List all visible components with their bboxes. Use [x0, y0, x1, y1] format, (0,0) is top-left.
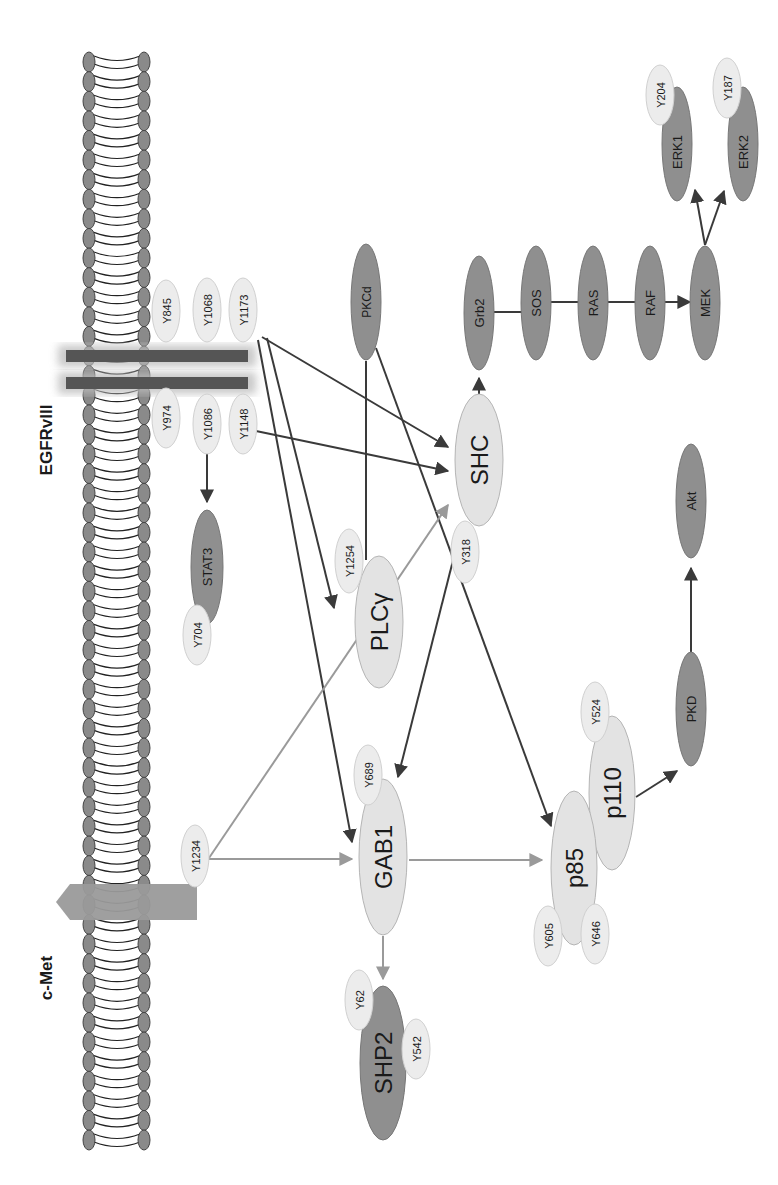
- site-y1148: Y1148: [229, 394, 257, 454]
- svg-text:SOS: SOS: [529, 289, 544, 317]
- site-y1068: Y1068: [193, 278, 221, 342]
- svg-text:Y318: Y318: [460, 539, 472, 565]
- svg-text:RAF: RAF: [643, 290, 658, 316]
- svg-text:SHC: SHC: [466, 435, 493, 486]
- svg-text:Y1148: Y1148: [238, 409, 250, 440]
- node-erk1: ERK1 Y204: [646, 65, 692, 201]
- node-stat3: STAT3 Y704: [183, 510, 223, 665]
- arrow-mek-erk2: [705, 191, 724, 245]
- svg-text:p85: p85: [561, 848, 588, 888]
- svg-text:RAS: RAS: [586, 289, 601, 316]
- node-sos: SOS: [521, 246, 551, 360]
- cell-membrane: [83, 52, 150, 1153]
- svg-text:Y646: Y646: [590, 921, 602, 947]
- svg-text:Y1086: Y1086: [202, 408, 214, 440]
- svg-text:GAB1: GAB1: [370, 825, 397, 889]
- signaling-pathway-diagram: EGFRvIII c-Met: [0, 0, 778, 1185]
- site-y974: Y974: [152, 388, 180, 448]
- svg-text:Y187: Y187: [722, 75, 734, 101]
- svg-text:Grb2: Grb2: [472, 299, 487, 328]
- egfrviii-label: EGFRvIII: [37, 405, 56, 476]
- arrow-y1234-shc: [209, 505, 448, 858]
- svg-text:Y1068: Y1068: [202, 294, 214, 326]
- node-akt: Akt: [676, 444, 706, 558]
- svg-text:STAT3: STAT3: [200, 548, 215, 587]
- svg-text:Y542: Y542: [411, 1036, 423, 1062]
- site-y1234: Y1234: [181, 825, 209, 887]
- svg-text:Y605: Y605: [543, 923, 555, 949]
- site-y1086: Y1086: [193, 394, 221, 454]
- cmet-receptor: [56, 884, 197, 920]
- cmet-label: c-Met: [37, 955, 56, 1000]
- svg-text:PKD: PKD: [684, 696, 699, 723]
- svg-text:p110: p110: [599, 767, 626, 819]
- svg-text:Y704: Y704: [192, 622, 204, 648]
- svg-text:PKCd: PKCd: [360, 286, 374, 317]
- node-ras: RAS: [578, 246, 608, 360]
- svg-text:Y524: Y524: [590, 699, 602, 725]
- svg-text:Y1173: Y1173: [238, 295, 250, 326]
- site-y1173: Y1173: [229, 278, 257, 342]
- svg-text:Y1234: Y1234: [190, 840, 202, 872]
- svg-text:MEK: MEK: [698, 289, 713, 318]
- svg-text:ERK2: ERK2: [736, 135, 751, 169]
- svg-text:PLCγ: PLCγ: [366, 593, 393, 652]
- node-plcg: PLCγ Y1254: [335, 529, 403, 688]
- svg-text:Y62: Y62: [354, 990, 366, 1010]
- svg-text:ERK1: ERK1: [670, 135, 685, 169]
- svg-text:Akt: Akt: [684, 491, 699, 510]
- svg-text:SHP2: SHP2: [370, 1032, 397, 1095]
- svg-text:Y845: Y845: [161, 298, 173, 324]
- svg-text:Y689: Y689: [363, 762, 375, 788]
- node-erk2: ERK2 Y187: [713, 58, 758, 201]
- node-raf: RAF: [635, 246, 665, 360]
- svg-text:Y204: Y204: [655, 82, 667, 108]
- site-y845: Y845: [152, 280, 180, 342]
- arrow-mek-erk1: [695, 190, 705, 245]
- node-mek: MEK: [690, 246, 720, 360]
- svg-text:Y974: Y974: [161, 405, 173, 431]
- node-grb2: Grb2: [464, 256, 494, 370]
- arrow-y1173-gab1: [258, 340, 352, 842]
- node-pkcd: PKCd: [351, 244, 381, 360]
- arrow-p110-pkd: [636, 771, 677, 797]
- node-shp2: SHP2 Y62 Y542: [345, 970, 430, 1140]
- node-pkd: PKD: [676, 652, 706, 766]
- svg-text:Y1254: Y1254: [344, 545, 356, 577]
- node-shc: SHC Y318: [451, 394, 503, 583]
